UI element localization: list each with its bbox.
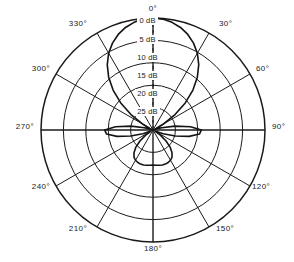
angle-label-0: 0°: [7, 4, 294, 13]
radial-label-20dB: 20 dB: [0, 90, 293, 98]
angle-label-270: 270°: [0, 122, 34, 131]
grid-spoke-150: [153, 130, 209, 227]
radial-label-0dB: 0 dB: [0, 17, 293, 25]
radial-label-10dB: 10 dB: [0, 54, 293, 62]
angle-label-240: 240°: [0, 182, 50, 191]
grid-spoke-120: [153, 130, 250, 186]
radial-label-5dB: 5 dB: [0, 36, 293, 44]
angle-label-210: 210°: [0, 224, 87, 233]
angle-label-90: 90°: [272, 122, 285, 131]
polar-radiation-pattern-chart: 0°30°60°90°120°150°180°210°240°270°300°3…: [0, 0, 293, 262]
grid-spoke-240: [56, 130, 153, 186]
angle-label-150: 150°: [216, 224, 234, 233]
angle-label-120: 120°: [252, 182, 270, 191]
radial-label-25dB: 25 dB: [0, 108, 293, 116]
grid-spoke-210: [97, 130, 153, 227]
radial-label-15dB: 15 dB: [0, 72, 293, 80]
angle-label-180: 180°: [7, 244, 294, 253]
